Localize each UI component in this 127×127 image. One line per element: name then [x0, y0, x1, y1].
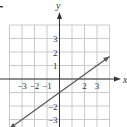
- x-tick-label: 3: [95, 81, 100, 91]
- y-axis-arrow-icon: [57, 12, 62, 19]
- x-tick-label: −1: [42, 81, 52, 91]
- coordinate-plane: −3−2−123321−2−3 y x: [0, 0, 127, 127]
- x-axis-label: x: [122, 74, 127, 85]
- x-tick-label: −2: [30, 81, 40, 91]
- y-tick-label: −3: [48, 115, 58, 125]
- y-tick-label: 1: [53, 61, 58, 71]
- y-tick-label: 2: [53, 48, 58, 58]
- y-axis-label: y: [55, 0, 61, 11]
- y-tick-label: −2: [48, 102, 58, 112]
- y-tick-label: 3: [53, 34, 58, 44]
- corner-mark: [0, 6, 3, 8]
- x-axis-arrow-icon: [114, 77, 121, 82]
- x-tick-label: −3: [17, 81, 27, 91]
- x-tick-label: 2: [82, 81, 87, 91]
- axes: [0, 12, 121, 127]
- line-arrow-icon: [103, 56, 109, 62]
